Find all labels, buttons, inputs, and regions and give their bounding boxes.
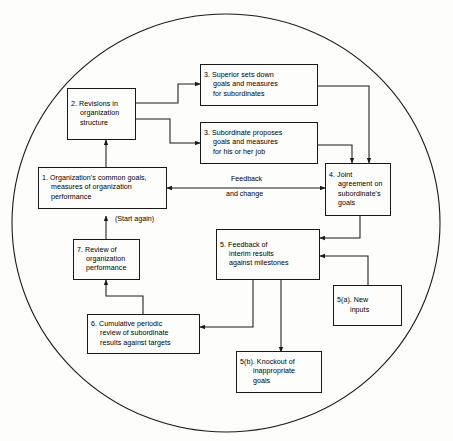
box6-line-2: review of subordinate <box>91 329 196 338</box>
box-superior-sets-down-goals[interactable]: 3. Superior sets down goals and measures… <box>200 64 318 106</box>
box3b-line-3: for his or her job <box>204 148 314 157</box>
box-joint-agreement-on-goals[interactable]: 4. Joint agreement on subordinate's goal… <box>325 163 391 216</box>
box3b-line-2: goals and measures <box>204 138 314 147</box>
box2-line-1: 2. Revisions in <box>71 100 132 109</box>
label-and-change: and change <box>226 190 263 199</box>
box3a-line-1: 3. Superior sets down <box>204 71 314 80</box>
box-cumulative-periodic-review[interactable]: 6. Cumulative periodic review of subordi… <box>87 314 200 354</box>
box5-line-1: 5. Feedback of <box>220 241 316 250</box>
box2-line-3: structure <box>71 119 132 128</box>
box4-line-2: agreement on <box>329 180 387 189</box>
box7-line-2: organization <box>77 255 136 264</box>
box7-line-1: 7. Review of <box>77 246 136 255</box>
box4-line-1: 4. Joint <box>329 171 387 180</box>
connector-box2-to-box3a <box>136 84 200 103</box>
box5-line-3: against milestones <box>220 259 316 268</box>
box3a-line-3: for subordinates <box>204 90 314 99</box>
box6-line-3: results against targets <box>91 339 196 348</box>
box1-line-2: measures of organization <box>42 183 163 192</box>
box-feedback-of-interim-results[interactable]: 5. Feedback of interim results against m… <box>216 229 320 280</box>
box4-line-3: subordinate's <box>329 190 387 199</box>
box-knockout-of-inappropriate-goals[interactable]: 5(b). Knockout of inappropriate goals <box>236 351 322 393</box>
box-review-of-organization-performance[interactable]: 7. Review of organization performance <box>73 239 140 280</box>
connector-box5-to-box6 <box>200 280 253 327</box>
box4-line-4: goals <box>329 199 387 208</box>
connector-box4-to-box5 <box>320 216 360 238</box>
box2-line-2: organization <box>71 109 132 118</box>
connector-box6-to-box7 <box>106 280 143 315</box>
box6-line-1: 6. Cumulative periodic <box>91 320 196 329</box>
box3a-line-2: goals and measures <box>204 80 314 89</box>
box7-line-3: performance <box>77 264 136 273</box>
box1-line-3: performance <box>42 193 163 202</box>
box-new-inputs[interactable]: 5(a). New inputs <box>333 285 402 326</box>
box5a-line-1: 5(a). New <box>337 296 398 305</box>
box3b-line-1: 3. Subordinate proposes <box>204 129 314 138</box>
box5b-line-1: 5(b). Knockout of <box>240 358 318 367</box>
box5a-line-2: inputs <box>337 306 398 315</box>
box5b-line-2: inappropriate <box>240 367 318 376</box>
diagram-canvas: 2. Revisions in organization structure 3… <box>0 0 453 441</box>
box5-line-2: interim results <box>220 250 316 259</box>
label-feedback: Feedback <box>231 175 262 184</box>
box1-line-1: 1. Organization's common goals, <box>42 174 163 183</box>
connector-box2-to-box3b <box>136 119 200 143</box>
box-organization-common-goals[interactable]: 1. Organization's common goals, measures… <box>38 167 167 209</box>
box-revisions-in-organization-structure[interactable]: 2. Revisions in organization structure <box>67 88 136 140</box>
box5b-line-3: goals <box>240 377 318 386</box>
connector-box3b-to-box4 <box>318 145 352 163</box>
box-subordinate-proposes-goals[interactable]: 3. Subordinate proposes goals and measur… <box>200 122 318 164</box>
label-start-again: (Start again) <box>115 215 154 224</box>
connector-box3a-to-box4 <box>318 86 369 163</box>
